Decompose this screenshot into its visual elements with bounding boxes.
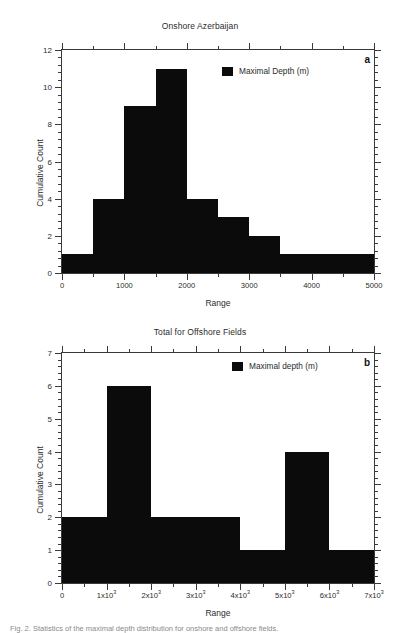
axis-tick-minor [58, 95, 62, 96]
axis-tick-minor [58, 498, 62, 499]
axis-tick-major [249, 43, 250, 50]
axis-tick-minor [374, 139, 378, 140]
figure-root: Onshore Azerbaijan Maximal Depth (m) a C… [0, 0, 400, 633]
axis-tick-minor [58, 57, 62, 58]
bar [240, 550, 285, 583]
axis-tick-minor [58, 544, 62, 545]
chart-panel-a: Onshore Azerbaijan Maximal Depth (m) a C… [0, 0, 400, 310]
bar-series-a [62, 50, 374, 273]
axis-tick-minor [218, 46, 219, 50]
axis-tick-major [329, 583, 330, 590]
axis-tick-minor [93, 273, 94, 277]
x-tick-label: 5000 [366, 281, 383, 290]
axis-tick-minor [58, 228, 62, 229]
axis-tick-major [187, 273, 188, 280]
x-tick-label: 2000 [178, 281, 195, 290]
axis-tick-minor [58, 511, 62, 512]
axis-tick-major [107, 346, 108, 353]
axis-tick-minor [218, 583, 219, 587]
axis-tick-minor [58, 65, 62, 66]
axis-tick-minor [58, 432, 62, 433]
y-tick-label: 6 [48, 381, 52, 390]
axis-tick-major [55, 199, 62, 200]
axis-tick-minor [374, 243, 378, 244]
axis-tick-minor [58, 570, 62, 571]
axis-tick-minor [374, 221, 378, 222]
axis-tick-major [187, 43, 188, 50]
axis-tick-major [55, 517, 62, 518]
axis-tick-minor [374, 147, 378, 148]
axis-tick-minor [374, 102, 378, 103]
axis-tick-minor [374, 412, 378, 413]
x-tick-label: 1000 [116, 281, 133, 290]
axis-tick-major [374, 583, 375, 590]
axis-tick-minor [374, 392, 378, 393]
axis-tick-minor [374, 117, 378, 118]
axis-tick-minor [374, 537, 378, 538]
axis-tick-major [374, 124, 381, 125]
x-tick-label: 0 [60, 281, 64, 290]
axis-tick-minor [93, 46, 94, 50]
axis-tick-minor [374, 524, 378, 525]
axis-tick-minor [58, 184, 62, 185]
axis-tick-major [62, 43, 63, 50]
axis-tick-minor [58, 425, 62, 426]
axis-tick-minor [307, 583, 308, 587]
bar [93, 199, 124, 273]
figure-caption: Fig. 2. Statistics of the maximal depth … [10, 624, 392, 633]
axis-tick-minor [84, 583, 85, 587]
bar [280, 254, 374, 273]
x-tick-label: 1x103 [97, 591, 116, 600]
axis-tick-major [329, 346, 330, 353]
axis-tick-major [374, 346, 375, 353]
x-tick-label: 6x103 [320, 591, 339, 600]
axis-tick-minor [129, 583, 130, 587]
x-axis-label-b: Range [62, 608, 374, 618]
bar [218, 217, 249, 273]
y-tick-label: 1 [48, 546, 52, 555]
axis-tick-major [62, 273, 63, 280]
axis-tick-minor [374, 258, 378, 259]
axis-tick-minor [374, 176, 378, 177]
axis-tick-major [55, 583, 62, 584]
x-tick-label: 5x103 [275, 591, 294, 600]
axis-tick-minor [58, 266, 62, 267]
axis-tick-major [151, 583, 152, 590]
y-tick-label: 7 [48, 349, 52, 358]
axis-tick-minor [58, 243, 62, 244]
axis-tick-major [374, 386, 381, 387]
axis-tick-major [374, 162, 381, 163]
y-tick-label: 8 [48, 120, 52, 129]
axis-tick-minor [374, 570, 378, 571]
axis-tick-minor [58, 576, 62, 577]
axis-tick-major [55, 484, 62, 485]
axis-tick-major [55, 419, 62, 420]
y-tick-label: 0 [48, 269, 52, 278]
axis-tick-minor [374, 95, 378, 96]
axis-tick-minor [173, 583, 174, 587]
bar [151, 517, 240, 583]
axis-tick-major [374, 87, 381, 88]
panel-letter-a: a [364, 54, 370, 65]
axis-tick-major [249, 273, 250, 280]
axis-tick-minor [58, 169, 62, 170]
legend-b: Maximal depth (m) [232, 361, 318, 371]
axis-tick-minor [58, 360, 62, 361]
axis-tick-minor [374, 438, 378, 439]
axis-tick-minor [374, 57, 378, 58]
axis-tick-major [374, 484, 381, 485]
axis-tick-minor [343, 46, 344, 50]
axis-tick-minor [374, 563, 378, 564]
chart-panel-b: Total for Offshore Fields Maximal depth … [0, 310, 400, 633]
axis-tick-minor [374, 132, 378, 133]
axis-tick-minor [218, 273, 219, 277]
axis-tick-minor [374, 373, 378, 374]
y-tick-label: 2 [48, 231, 52, 240]
axis-tick-minor [343, 273, 344, 277]
axis-tick-minor [58, 191, 62, 192]
axis-tick-minor [374, 206, 378, 207]
axis-tick-minor [58, 379, 62, 380]
axis-tick-minor [263, 349, 264, 353]
axis-tick-minor [374, 557, 378, 558]
axis-tick-major [285, 346, 286, 353]
